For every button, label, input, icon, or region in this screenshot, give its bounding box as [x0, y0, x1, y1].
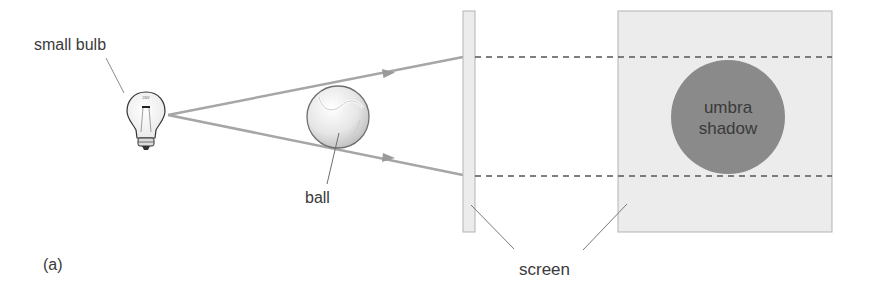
umbra-shadow-diagram: small bulb 230V ball umbra shadow sc: [0, 0, 874, 301]
light-bulb-icon: 230V: [127, 92, 165, 150]
ball-label: ball: [305, 189, 330, 206]
screen-leader-left: [471, 205, 514, 249]
umbra-shadow: [671, 60, 785, 174]
umbra-label-line2: shadow: [699, 119, 758, 138]
bulb-leader-line: [106, 58, 124, 93]
umbra-label-line1: umbra: [704, 98, 753, 117]
screen-label: screen: [519, 260, 570, 279]
bulb-voltage-text: 230V: [142, 96, 149, 100]
panel-label: (a): [43, 256, 63, 273]
screen-edge-view: [463, 11, 475, 232]
bulb-label: small bulb: [34, 36, 106, 53]
